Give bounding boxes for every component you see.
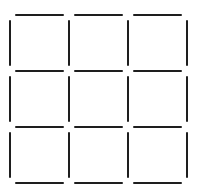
vertical-segment xyxy=(68,76,70,122)
vertical-segment xyxy=(186,76,188,122)
vertical-segment xyxy=(127,20,129,66)
horizontal-segment xyxy=(74,182,123,184)
vertical-segment xyxy=(9,76,11,122)
horizontal-segment xyxy=(74,70,123,72)
vertical-segment xyxy=(186,20,188,66)
horizontal-segment xyxy=(15,14,64,16)
horizontal-segment xyxy=(133,14,182,16)
horizontal-segment xyxy=(15,182,64,184)
vertical-segment xyxy=(127,132,129,178)
vertical-segment xyxy=(9,132,11,178)
horizontal-segment xyxy=(133,126,182,128)
horizontal-segment xyxy=(133,182,182,184)
vertical-segment xyxy=(127,76,129,122)
vertical-segment xyxy=(68,132,70,178)
horizontal-segment xyxy=(15,126,64,128)
vertical-segment xyxy=(9,20,11,66)
horizontal-segment xyxy=(74,14,123,16)
vertical-segment xyxy=(186,132,188,178)
horizontal-segment xyxy=(133,70,182,72)
horizontal-segment xyxy=(74,126,123,128)
vertical-segment xyxy=(68,20,70,66)
matchstick-grid-diagram xyxy=(0,0,204,188)
horizontal-segment xyxy=(15,70,64,72)
